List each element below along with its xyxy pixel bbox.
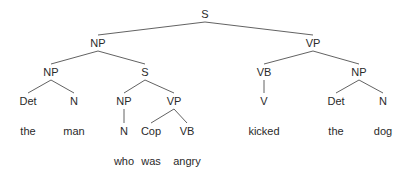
tree-edge-np3-n2 <box>359 80 383 93</box>
tree-nodes: SNPVPNPSVBNPDetNNPVPVDetNthemanNCopVBkic… <box>19 8 392 167</box>
tree-node-n2: N <box>379 95 387 107</box>
tree-edge-s1-np4 <box>124 80 145 93</box>
tree-edges <box>28 22 383 123</box>
tree-node-v1: V <box>260 95 268 107</box>
tree-edge-vp1-vb1 <box>264 51 313 64</box>
tree-edge-vp2-cop <box>151 109 174 123</box>
tree-node-np4: NP <box>116 95 131 107</box>
tree-node-s1: S <box>141 66 148 78</box>
tree-node-w_man: man <box>63 125 84 137</box>
tree-edge-s1-vp2 <box>145 80 174 93</box>
tree-node-det1: Det <box>19 95 36 107</box>
tree-node-vb2: VB <box>180 125 195 137</box>
tree-node-w_kicked: kicked <box>248 125 279 137</box>
tree-node-vp1: VP <box>306 37 321 49</box>
tree-node-s0: S <box>201 8 208 20</box>
tree-edge-vp1-np3 <box>313 51 359 64</box>
tree-node-w_angry: angry <box>173 155 201 167</box>
tree-edge-vp2-vb2 <box>174 109 187 123</box>
tree-node-w_the1: the <box>20 125 35 137</box>
tree-node-det2: Det <box>327 95 344 107</box>
tree-edge-np2-n1 <box>51 80 74 93</box>
tree-edge-np3-det2 <box>336 80 359 93</box>
tree-node-vb1: VB <box>257 66 272 78</box>
tree-edge-np1-s1 <box>98 51 145 64</box>
tree-node-n1: N <box>70 95 78 107</box>
tree-node-cop: Cop <box>141 125 161 137</box>
tree-node-w_the2: the <box>328 125 343 137</box>
syntax-tree-diagram: SNPVPNPSVBNPDetNNPVPVDetNthemanNCopVBkic… <box>0 0 410 180</box>
tree-node-w_was: was <box>140 155 161 167</box>
tree-node-n3: N <box>120 125 128 137</box>
tree-edge-np2-det1 <box>28 80 51 93</box>
tree-node-w_dog: dog <box>374 125 392 137</box>
tree-node-np3: NP <box>351 66 366 78</box>
tree-node-np1: NP <box>90 37 105 49</box>
tree-node-vp2: VP <box>167 95 182 107</box>
tree-node-np2: NP <box>43 66 58 78</box>
tree-edge-np1-np2 <box>51 51 98 64</box>
tree-edge-s0-vp1 <box>205 22 313 35</box>
tree-edge-s0-np1 <box>98 22 205 35</box>
tree-node-w_who: who <box>113 155 134 167</box>
